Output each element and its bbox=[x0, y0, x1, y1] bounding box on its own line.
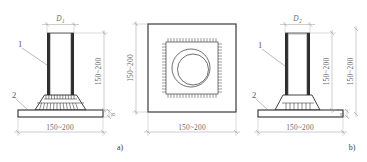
callout-1-a: 1 bbox=[18, 39, 47, 65]
dim-far-right-height-b: 150~200 bbox=[346, 26, 358, 117]
dim-height-b-label: 150~200 bbox=[322, 58, 331, 86]
dim-plan-width-label: 150~200 bbox=[178, 123, 206, 132]
plan-inner-square bbox=[162, 38, 222, 98]
dim-thickness-b-label: 8 bbox=[339, 113, 345, 116]
dim-width-b-label: 150~200 bbox=[286, 123, 314, 132]
dim-far-height-b-label: 150~200 bbox=[346, 58, 355, 86]
callout-2-a: 2 bbox=[12, 90, 28, 110]
callout-2-b-label: 2 bbox=[252, 90, 256, 100]
engineering-drawing-figure: D1 bbox=[0, 0, 367, 162]
dim-plan-height-label: 150~200 bbox=[126, 54, 135, 82]
callout-2-b: 2 bbox=[252, 90, 268, 110]
dim-d1-subscript: 1 bbox=[62, 18, 65, 24]
callout-1-b-label: 1 bbox=[258, 40, 262, 50]
column-shaft-a bbox=[47, 33, 74, 95]
column-base-flare-b bbox=[275, 95, 320, 110]
dim-width-a-label: 150~200 bbox=[46, 123, 74, 132]
dim-top-d1: D1 bbox=[42, 14, 79, 33]
dim-plate-thickness-a: 8 bbox=[103, 109, 116, 119]
dim-bottom-width-b: 150~200 bbox=[254, 117, 347, 136]
view-plan: 150~200 bbox=[126, 21, 240, 136]
base-plate-a bbox=[18, 110, 103, 117]
dim-top-d2: D2 bbox=[280, 14, 315, 33]
callout-2-a-label: 2 bbox=[12, 90, 16, 100]
column-shaft-b bbox=[285, 33, 310, 95]
dim-thickness-a-label: 8 bbox=[110, 113, 116, 116]
dim-height-a-label: 150~200 bbox=[94, 58, 103, 86]
base-plate-b bbox=[258, 110, 343, 117]
dim-bottom-plan: 150~200 bbox=[144, 112, 240, 136]
view-a-elevation: D1 bbox=[12, 14, 123, 152]
dim-left-plan: 150~200 bbox=[126, 21, 148, 115]
column-base-flare-a bbox=[35, 95, 86, 110]
dim-d2-subscript: 2 bbox=[299, 18, 302, 24]
callout-1-a-label: 1 bbox=[18, 39, 22, 49]
caption-a: a) bbox=[117, 143, 124, 152]
svg-text:D2: D2 bbox=[292, 14, 302, 24]
svg-text:D1: D1 bbox=[55, 14, 65, 24]
dim-bottom-width-a: 150~200 bbox=[14, 117, 107, 136]
view-b-elevation: D2 bbox=[252, 14, 358, 152]
callout-1-b: 1 bbox=[258, 40, 285, 66]
caption-b: b) bbox=[349, 143, 356, 152]
